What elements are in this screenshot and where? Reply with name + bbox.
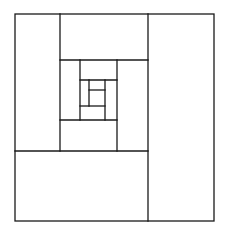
division-lines — [15, 14, 148, 221]
spiral-diagram — [0, 0, 226, 232]
outer-square — [15, 14, 214, 221]
